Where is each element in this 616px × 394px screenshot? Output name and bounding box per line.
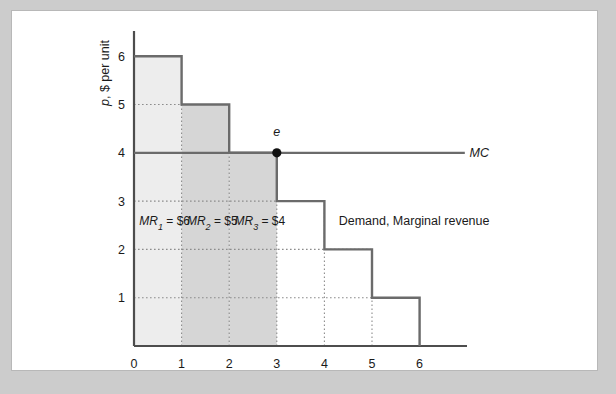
x-tick-4: 4 <box>321 357 328 371</box>
y-tick-5: 5 <box>118 98 125 112</box>
x-tick-labels: 0123456 <box>131 357 424 371</box>
x-tick-6: 6 <box>416 357 423 371</box>
figure-panel: 123456 0123456 e MC MR1 = $6 MR2 = $5 MR… <box>11 10 598 371</box>
y-tick-2: 2 <box>118 243 125 257</box>
x-tick-1: 1 <box>178 357 185 371</box>
y-tick-1: 1 <box>118 291 125 305</box>
equilibrium-point-label: e <box>273 125 280 139</box>
demand-curve-label: Demand, Marginal revenue <box>339 214 490 228</box>
y-tick-4: 4 <box>118 146 125 160</box>
y-tick-6: 6 <box>118 50 125 64</box>
y-axis-title: p, $ per unit <box>98 39 112 107</box>
x-tick-3: 3 <box>273 357 280 371</box>
equilibrium-point-e <box>272 148 281 157</box>
y-tick-3: 3 <box>118 195 125 209</box>
mr3-region <box>229 153 277 346</box>
mc-curve-label: MC <box>470 146 490 160</box>
x-tick-0: 0 <box>131 357 138 371</box>
x-tick-5: 5 <box>369 357 376 371</box>
x-tick-2: 2 <box>226 357 233 371</box>
chart-plot-area: 123456 0123456 e MC MR1 = $6 MR2 = $5 MR… <box>12 11 599 372</box>
y-tick-labels: 123456 <box>118 50 125 306</box>
